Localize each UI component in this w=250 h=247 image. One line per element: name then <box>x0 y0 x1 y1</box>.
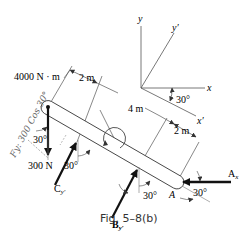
moment-leader <box>64 70 70 78</box>
moment-label: 4000 N · m <box>14 71 60 82</box>
x-prime-axis-label: x′ <box>196 115 204 126</box>
beam <box>41 101 184 189</box>
handwritten-annotation: Fy: 300 Cos 30° <box>7 90 51 160</box>
angle-cy-label: 30° <box>64 160 78 171</box>
axes-angle-label: 30° <box>176 94 190 105</box>
angle-ax-label: 30° <box>193 187 207 198</box>
force-by-arrow <box>112 170 137 218</box>
force-ax-label: Ax <box>228 168 239 181</box>
dimension-2m-left: 2 m <box>79 72 95 83</box>
y-axis-label: y <box>137 13 143 24</box>
axes-angle-arc <box>170 88 172 101</box>
y-prime-axis-label: y′ <box>171 22 179 33</box>
dimension-4m: 4 m <box>128 103 144 114</box>
angle-by-label: 30° <box>143 190 157 201</box>
dimension-2m-right: 2 m <box>174 125 190 136</box>
y-prime-axis <box>141 33 174 88</box>
free-body-diagram: y x y′ x′ 30° 2 m 4 m 2 m 4000 N · m 30 <box>0 0 250 247</box>
figure-caption: Fig. 5–8(b) <box>100 212 158 225</box>
angle-300n-label: 30° <box>33 134 47 145</box>
x-axis-label: x <box>206 82 212 93</box>
force-300n-label: 300 N <box>28 160 53 171</box>
force-cy-label: Cy′ <box>54 183 66 196</box>
coordinate-axes <box>141 26 205 116</box>
point-a-label: A <box>168 189 176 200</box>
